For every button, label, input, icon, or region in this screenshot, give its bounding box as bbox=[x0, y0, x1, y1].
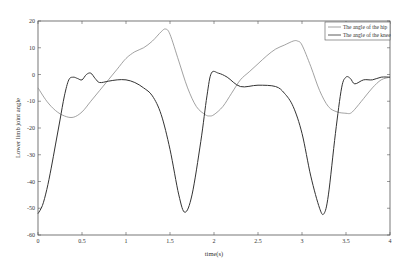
y-tick-label: -60 bbox=[27, 232, 35, 238]
x-axis-label: time(s) bbox=[205, 250, 223, 258]
x-tick-label: 1 bbox=[125, 238, 128, 244]
x-tick-label: 1.5 bbox=[166, 238, 174, 244]
y-tick-label: -20 bbox=[27, 125, 35, 131]
legend-label-knee: The angle of the knee bbox=[343, 32, 391, 38]
y-tick-label: -30 bbox=[27, 152, 35, 158]
legend-label-hip: The angle of the hip bbox=[343, 24, 388, 30]
x-tick-label: 0.5 bbox=[78, 238, 86, 244]
x-tick-label: 3 bbox=[301, 238, 304, 244]
y-axis-ticks: 20100-10-20-30-40-50-60 bbox=[27, 18, 390, 238]
plot-frame bbox=[38, 21, 390, 235]
y-tick-label: 0 bbox=[32, 72, 35, 78]
x-tick-label: 3.5 bbox=[342, 238, 350, 244]
y-tick-label: -40 bbox=[27, 179, 35, 185]
y-tick-label: -50 bbox=[27, 205, 35, 211]
y-tick-label: 20 bbox=[29, 18, 35, 24]
y-tick-label: 10 bbox=[29, 45, 35, 51]
y-axis-label: Lower limb joint angle bbox=[14, 98, 21, 158]
line-chart: 20100-10-20-30-40-50-60 00.511.522.533.5… bbox=[0, 0, 413, 272]
x-tick-label: 2.5 bbox=[254, 238, 262, 244]
x-tick-label: 2 bbox=[213, 238, 216, 244]
series-layer bbox=[38, 29, 390, 215]
knee-angle-line bbox=[38, 71, 390, 214]
y-tick-label: -10 bbox=[27, 98, 35, 104]
x-tick-label: 0 bbox=[37, 238, 40, 244]
legend: The angle of the hip The angle of the kn… bbox=[325, 22, 391, 40]
x-tick-label: 4 bbox=[389, 238, 392, 244]
x-axis-ticks: 00.511.522.533.54 bbox=[37, 21, 392, 244]
